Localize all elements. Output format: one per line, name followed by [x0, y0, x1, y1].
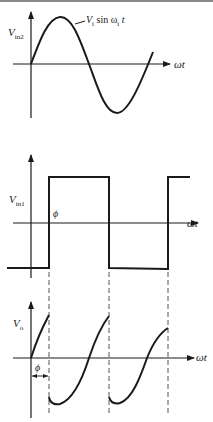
- output-phase-label: ϕ: [35, 363, 40, 373]
- curve-label-leader: [75, 21, 85, 24]
- square-x-label: ωt: [187, 218, 198, 229]
- sine-y-label: Vin2: [8, 27, 24, 41]
- output-segment-3: [109, 328, 168, 403]
- sine-curve: [31, 17, 153, 113]
- sine-x-label: ωt: [174, 59, 185, 70]
- output-segment-2: [49, 316, 109, 404]
- output-y-label: Vo: [13, 318, 23, 332]
- sine-curve-label: Vi sin ωi t: [86, 15, 125, 28]
- square-y-label: Vin1: [9, 194, 25, 208]
- square-phase-label: ϕ: [53, 209, 58, 219]
- output-panel: [13, 302, 194, 418]
- square-panel: [7, 155, 198, 278]
- phase-guides: [49, 272, 168, 416]
- output-x-label: ωt: [196, 352, 207, 363]
- output-segment-1: [31, 315, 49, 358]
